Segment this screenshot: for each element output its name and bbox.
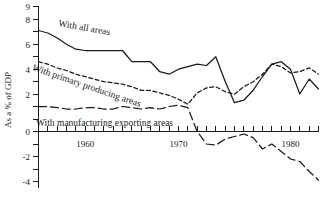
y-tick-label-neg4: -4	[23, 177, 31, 187]
y-tick-label-neg2: -2	[23, 152, 31, 162]
series-label-primary-producing: With primary producing areas	[31, 62, 142, 109]
y-tick-label-8: 8	[26, 15, 31, 25]
series-all-areas	[39, 31, 319, 103]
y-tick-label-9: 9	[26, 2, 31, 12]
x-tick-label-1970: 1970	[170, 139, 189, 149]
y-tick-label-0: 0	[26, 127, 31, 137]
x-tick-label-1980: 1980	[282, 139, 301, 149]
series-label-all-areas: With all areas	[58, 18, 112, 37]
y-tick-label-2: 2	[26, 90, 31, 100]
x-tick-label-1960: 1960	[76, 139, 95, 149]
series-label-manufacturing-exporting: With manufacturing exporting areas	[36, 118, 173, 128]
y-axis-ticks	[33, 7, 39, 182]
y-tick-label-6: 6	[26, 40, 31, 50]
chart-figure: 9 8 6 4 2 0 -2 -4 As a % of GDP	[0, 0, 323, 198]
y-tick-label-4: 4	[26, 65, 31, 75]
line-chart: 9 8 6 4 2 0 -2 -4 As a % of GDP	[0, 0, 323, 198]
y-axis-title: As a % of GDP	[3, 72, 13, 128]
